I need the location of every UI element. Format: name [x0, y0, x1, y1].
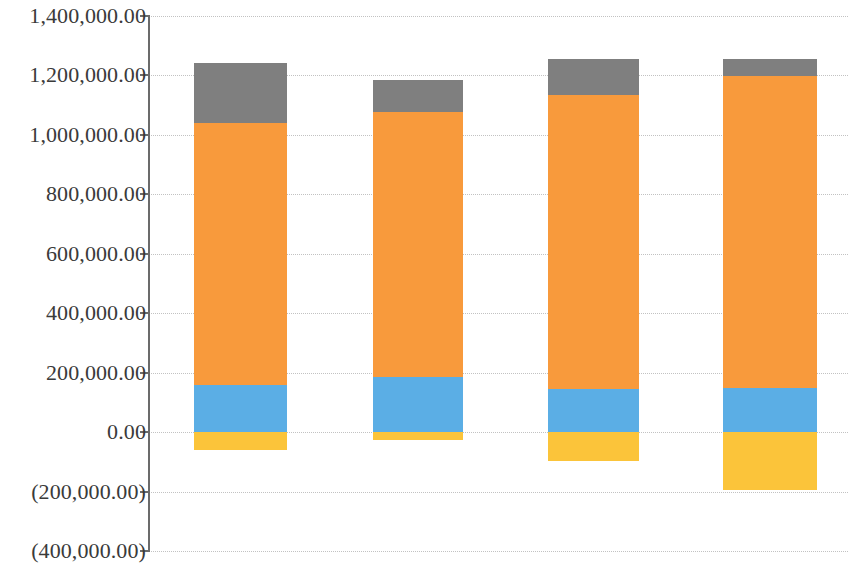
- bar-group[interactable]: [548, 0, 639, 566]
- y-axis-tick-label: 0.00: [4, 421, 146, 443]
- plot-area: [148, 0, 848, 566]
- bar-segment-series-1-yellow[interactable]: [373, 432, 463, 440]
- y-axis-labels: 1,400,000.001,200,000.001,000,000.00800,…: [0, 0, 146, 566]
- bar-segment-series-4-gray[interactable]: [194, 63, 287, 123]
- bar-segment-series-2-blue[interactable]: [723, 388, 817, 432]
- bar-segment-series-4-gray[interactable]: [548, 59, 639, 95]
- bar-segment-series-4-gray[interactable]: [723, 59, 817, 77]
- y-axis-tick-label: (400,000.00): [4, 540, 146, 562]
- bar-segment-series-3-orange[interactable]: [194, 123, 287, 385]
- y-axis-tick-label: 1,200,000.00: [4, 64, 146, 86]
- bar-segment-series-2-blue[interactable]: [373, 377, 463, 433]
- bar-segment-series-3-orange[interactable]: [723, 76, 817, 388]
- bar-segment-series-4-gray[interactable]: [373, 80, 463, 112]
- bar-segment-series-2-blue[interactable]: [194, 385, 287, 432]
- bar-segment-series-3-orange[interactable]: [373, 112, 463, 377]
- bar-group[interactable]: [373, 0, 463, 566]
- bar-segment-series-1-yellow[interactable]: [194, 432, 287, 450]
- y-axis-tick-label: 200,000.00: [4, 362, 146, 384]
- y-axis-tick-label: 400,000.00: [4, 302, 146, 324]
- y-axis-tick-label: (200,000.00): [4, 481, 146, 503]
- y-axis-line: [148, 16, 150, 551]
- y-axis-tick-label: 1,000,000.00: [4, 124, 146, 146]
- bar-segment-series-1-yellow[interactable]: [548, 432, 639, 461]
- y-axis-tick-label: 800,000.00: [4, 183, 146, 205]
- y-axis-tick-label: 600,000.00: [4, 243, 146, 265]
- y-axis-tick-label: 1,400,000.00: [4, 5, 146, 27]
- bar-group[interactable]: [723, 0, 817, 566]
- bar-segment-series-2-blue[interactable]: [548, 389, 639, 432]
- bar-segment-series-1-yellow[interactable]: [723, 432, 817, 490]
- bar-segment-series-3-orange[interactable]: [548, 95, 639, 389]
- stacked-bar-chart: 1,400,000.001,200,000.001,000,000.00800,…: [0, 0, 848, 566]
- bar-group[interactable]: [194, 0, 287, 566]
